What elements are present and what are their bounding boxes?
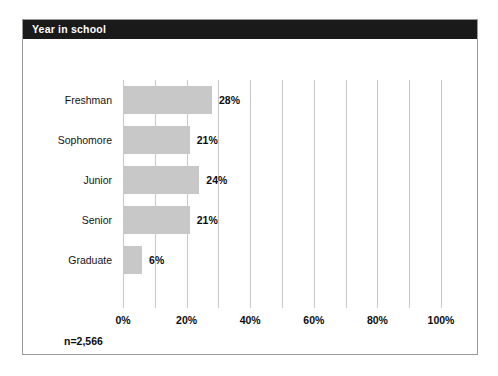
bar-category-label: Graduate	[68, 240, 112, 280]
page-title: Year in school	[32, 23, 106, 35]
bar-value-label: 6%	[149, 240, 164, 280]
bar-value-label: 24%	[206, 160, 227, 200]
bar-row: Senior21%	[123, 200, 441, 240]
bar-row: Sophomore21%	[123, 120, 441, 160]
bar-category-label: Senior	[82, 200, 112, 240]
x-tick-label: 0%	[115, 314, 130, 326]
bar-series: Freshman28%Sophomore21%Junior24%Senior21…	[123, 80, 441, 308]
bar-row: Junior24%	[123, 160, 441, 200]
plot-area: Freshman28%Sophomore21%Junior24%Senior21…	[23, 39, 477, 356]
panel-header: Year in school	[23, 20, 477, 39]
gridline	[441, 80, 442, 308]
bar-value-label: 21%	[197, 200, 218, 240]
sample-size-annotation: n=2,566	[64, 335, 103, 347]
x-tick-label: 60%	[303, 314, 324, 326]
bar-row: Freshman28%	[123, 80, 441, 120]
bar-row: Graduate6%	[123, 240, 441, 280]
bar-category-label: Freshman	[65, 80, 112, 120]
bar	[123, 246, 142, 274]
bar	[123, 126, 190, 154]
x-tick-label: 100%	[428, 314, 455, 326]
x-axis: 0%20%40%60%80%100%	[123, 308, 441, 332]
chart-screenshot: Year in school Freshman28%Sophomore21%Ju…	[0, 0, 498, 376]
bar-value-label: 21%	[197, 120, 218, 160]
x-tick-label: 40%	[240, 314, 261, 326]
bar	[123, 86, 212, 114]
bar-value-label: 28%	[219, 80, 240, 120]
bar	[123, 206, 190, 234]
bar-category-label: Sophomore	[58, 120, 112, 160]
chart-panel: Year in school Freshman28%Sophomore21%Ju…	[22, 19, 478, 355]
x-tick-label: 20%	[176, 314, 197, 326]
x-tick-label: 80%	[367, 314, 388, 326]
bar	[123, 166, 199, 194]
bar-category-label: Junior	[83, 160, 112, 200]
